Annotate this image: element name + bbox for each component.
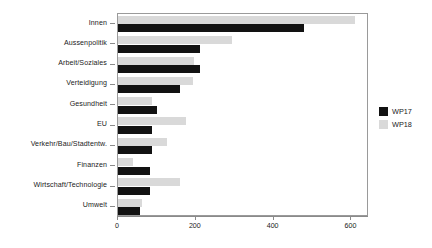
category-label: Wirtschaft/Technologie xyxy=(0,182,107,189)
x-tick-label: 200 xyxy=(189,222,201,230)
x-tick-label: 0 xyxy=(115,222,119,230)
category-label: Gesundheit xyxy=(0,101,107,108)
bar-wp18 xyxy=(118,138,167,146)
category-tick xyxy=(110,64,115,65)
x-axis-line xyxy=(117,216,368,217)
category-tick xyxy=(110,186,115,187)
bar-wp17 xyxy=(118,65,200,73)
category-label: Verkehr/Bau/Stadtentw. xyxy=(0,141,107,148)
bar-group xyxy=(118,199,367,216)
category-tick xyxy=(110,43,115,44)
category-tick xyxy=(110,206,115,207)
x-tick-label: 600 xyxy=(345,222,357,230)
category-label: EU xyxy=(0,121,107,128)
category-label: Innen xyxy=(0,20,107,27)
category-tick xyxy=(110,104,115,105)
legend-item: WP17 xyxy=(379,106,427,117)
bar-group xyxy=(118,117,367,134)
category-tick xyxy=(110,125,115,126)
chart-legend: WP17WP18 xyxy=(379,106,427,132)
bar-group xyxy=(118,16,367,33)
bar-wp17 xyxy=(118,85,180,93)
category-label: Arbeit/Soziales xyxy=(0,60,107,67)
bar-chart-figure: InnenAussenpolitikArbeit/SozialesVerteid… xyxy=(0,0,432,248)
bar-wp17 xyxy=(118,207,140,215)
legend-swatch-icon xyxy=(379,107,388,116)
legend-swatch-icon xyxy=(379,120,388,129)
bar-wp18 xyxy=(118,36,232,44)
bar-wp18 xyxy=(118,57,194,65)
bar-wp18 xyxy=(118,158,133,166)
category-label: Umwelt xyxy=(0,202,107,209)
category-tick xyxy=(110,165,115,166)
bar-wp18 xyxy=(118,178,180,186)
bar-group xyxy=(118,57,367,74)
x-tick xyxy=(117,216,118,220)
category-axis-labels: InnenAussenpolitikArbeit/SozialesVerteid… xyxy=(0,13,107,216)
bar-wp17 xyxy=(118,24,304,32)
bar-wp18 xyxy=(118,117,186,125)
bar-group xyxy=(118,138,367,155)
category-label: Aussenpolitik xyxy=(0,40,107,47)
bars-container xyxy=(118,14,367,215)
bar-wp17 xyxy=(118,45,200,53)
bar-group xyxy=(118,97,367,114)
bar-wp17 xyxy=(118,187,150,195)
x-tick xyxy=(195,216,196,220)
bar-wp17 xyxy=(118,146,152,154)
x-tick xyxy=(273,216,274,220)
bar-group xyxy=(118,158,367,175)
bar-wp17 xyxy=(118,167,150,175)
plot-area xyxy=(117,13,368,216)
bar-wp18 xyxy=(118,199,142,207)
bar-group xyxy=(118,178,367,195)
x-tick xyxy=(350,216,351,220)
bar-wp18 xyxy=(118,97,152,105)
x-tick-label: 400 xyxy=(267,222,279,230)
category-label: Verteidigung xyxy=(0,80,107,87)
category-label: Finanzen xyxy=(0,162,107,169)
legend-item: WP18 xyxy=(379,119,427,130)
bar-wp18 xyxy=(118,16,355,24)
category-tick xyxy=(110,145,115,146)
category-tick xyxy=(110,23,115,24)
bar-group xyxy=(118,36,367,53)
bar-wp17 xyxy=(118,126,152,134)
bar-wp18 xyxy=(118,77,193,85)
legend-label: WP18 xyxy=(392,121,412,128)
category-tick xyxy=(110,84,115,85)
bar-wp17 xyxy=(118,106,157,114)
legend-label: WP17 xyxy=(392,108,412,115)
bar-group xyxy=(118,77,367,94)
